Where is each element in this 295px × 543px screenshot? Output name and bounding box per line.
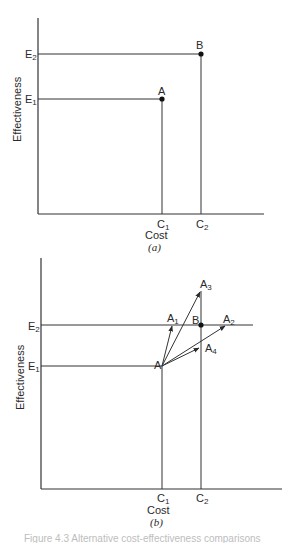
- svg-text:A: A: [154, 359, 162, 371]
- svg-text:E2: E2: [25, 48, 37, 62]
- tick-c2: C: [196, 492, 204, 504]
- panel-label-a: (a): [148, 241, 161, 254]
- panel-b: A B A1 A3 A2 A4 E2 E1 C1 C2 Cost (b) Eff…: [14, 258, 282, 529]
- svg-text:B: B: [192, 314, 199, 326]
- svg-text:A1: A1: [167, 312, 179, 326]
- svg-text:C2: C2: [196, 492, 209, 506]
- x-axis-label-b: Cost: [147, 504, 170, 516]
- y-axis-label-a: Effectiveness: [11, 76, 23, 142]
- tick-e1: E: [28, 360, 35, 372]
- tick-e2: E: [28, 320, 35, 332]
- svg-text:A2: A2: [223, 313, 235, 327]
- label-b: B: [192, 314, 199, 326]
- y-axis-label-b: Effectiveness: [14, 344, 26, 410]
- tick-e1: E: [25, 93, 32, 105]
- svg-text:E1: E1: [28, 360, 40, 374]
- arrow-a3: [162, 292, 200, 366]
- panel-a: A B E2 E1 C1 C2 Cost (a) Effectiveness: [11, 18, 264, 254]
- cost-effectiveness-figure: A B E2 E1 C1 C2 Cost (a) Effectiveness A…: [0, 0, 295, 543]
- svg-text:E2: E2: [28, 320, 40, 334]
- arrow-a1: [162, 326, 172, 366]
- figure-caption: Figure 4.3 Alternative cost-effectivenes…: [24, 533, 261, 543]
- point-b: [198, 51, 203, 56]
- tick-e2: E: [25, 48, 32, 60]
- svg-text:C2: C2: [196, 218, 209, 232]
- svg-text:B: B: [196, 39, 203, 51]
- svg-text:E1: E1: [25, 93, 37, 107]
- arrow-a4: [162, 348, 199, 366]
- tick-c2: C: [196, 218, 204, 230]
- label-a: A: [158, 85, 166, 97]
- x-axis-label-a: Cost: [145, 229, 168, 241]
- tick-c1: C: [157, 492, 165, 504]
- label-a: A: [154, 359, 162, 371]
- label-b: B: [196, 39, 203, 51]
- panel-label-b: (b): [150, 516, 163, 529]
- svg-text:A4: A4: [205, 342, 217, 356]
- point-a: [159, 96, 164, 101]
- svg-text:A: A: [158, 85, 166, 97]
- svg-text:A3: A3: [200, 278, 212, 292]
- arrow-a2: [162, 326, 225, 366]
